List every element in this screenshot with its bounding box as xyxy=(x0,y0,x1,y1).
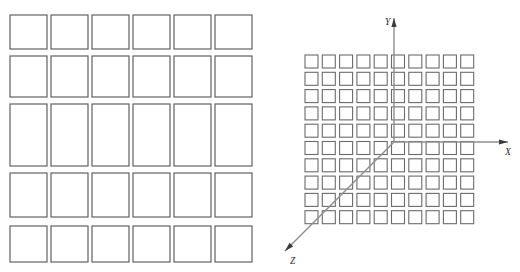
left-grid-cell xyxy=(215,104,252,166)
right-grid-cell xyxy=(426,72,439,85)
right-grid-cell xyxy=(409,90,422,103)
right-grid-cell xyxy=(392,193,405,206)
left-grid-cell xyxy=(51,15,88,49)
x-axis-label: X xyxy=(504,147,512,157)
right-grid-cell xyxy=(357,211,370,224)
left-grid-cell xyxy=(215,226,252,262)
right-grid-cell xyxy=(374,176,387,189)
right-grid-svg: YXZ xyxy=(260,0,520,272)
right-grid-cell xyxy=(426,107,439,120)
left-grid-cell-group xyxy=(10,15,252,262)
right-grid-cell xyxy=(426,55,439,68)
right-grid-cell xyxy=(305,159,318,172)
right-grid-cell xyxy=(461,72,474,85)
left-grid-cell xyxy=(133,173,170,217)
right-grid-cell xyxy=(426,142,439,155)
left-panel-coarse-grid xyxy=(0,0,260,272)
left-grid-cell xyxy=(10,56,47,97)
right-grid-cell xyxy=(357,159,370,172)
right-grid-cell xyxy=(443,142,456,155)
right-grid-cell xyxy=(426,211,439,224)
right-grid-cell xyxy=(461,107,474,120)
left-grid-cell xyxy=(92,173,129,217)
right-grid-cell xyxy=(305,193,318,206)
right-grid-cell xyxy=(409,124,422,137)
right-grid-cell xyxy=(443,107,456,120)
right-grid-cell xyxy=(426,159,439,172)
right-grid-cell xyxy=(322,176,335,189)
right-grid-cell xyxy=(374,72,387,85)
right-grid-cell xyxy=(322,142,335,155)
left-grid-cell xyxy=(215,15,252,49)
left-grid-cell xyxy=(51,173,88,217)
right-grid-cell xyxy=(374,211,387,224)
right-grid-cell xyxy=(461,124,474,137)
right-grid-cell xyxy=(305,72,318,85)
left-grid-cell xyxy=(215,56,252,97)
right-grid-cell xyxy=(461,176,474,189)
z-axis-label: Z xyxy=(290,256,296,266)
left-grid-cell xyxy=(10,173,47,217)
left-grid-cell xyxy=(133,15,170,49)
right-grid-cell xyxy=(340,90,353,103)
right-grid-cell xyxy=(443,159,456,172)
left-grid-cell xyxy=(133,226,170,262)
right-grid-cell xyxy=(357,72,370,85)
right-grid-cell xyxy=(340,176,353,189)
right-grid-cell xyxy=(392,159,405,172)
left-grid-cell xyxy=(174,173,211,217)
right-grid-cell xyxy=(340,159,353,172)
right-grid-cell xyxy=(322,193,335,206)
right-grid-cell xyxy=(340,211,353,224)
left-grid-cell xyxy=(174,56,211,97)
right-grid-cell xyxy=(322,159,335,172)
right-grid-cell xyxy=(357,193,370,206)
right-panel-fine-grid-with-axes: YXZ xyxy=(260,0,520,272)
right-grid-cell xyxy=(322,107,335,120)
right-grid-cell xyxy=(357,90,370,103)
right-grid-cell xyxy=(374,124,387,137)
right-grid-cell xyxy=(461,159,474,172)
right-grid-cell xyxy=(305,142,318,155)
right-grid-cell xyxy=(443,90,456,103)
left-grid-cell xyxy=(133,104,170,166)
right-grid-cell xyxy=(409,176,422,189)
right-grid-cell xyxy=(426,124,439,137)
figure-root: YXZ xyxy=(0,0,520,272)
right-grid-cell xyxy=(409,193,422,206)
left-grid-cell xyxy=(215,173,252,217)
right-grid-cell xyxy=(374,55,387,68)
right-grid-cell xyxy=(409,55,422,68)
right-grid-cell xyxy=(305,55,318,68)
right-grid-cell xyxy=(443,176,456,189)
right-grid-cell xyxy=(409,72,422,85)
right-grid-cell xyxy=(357,142,370,155)
right-grid-cell xyxy=(340,124,353,137)
left-grid-cell xyxy=(174,104,211,166)
right-grid-cell xyxy=(322,90,335,103)
right-grid-cell xyxy=(357,107,370,120)
left-grid-cell xyxy=(133,56,170,97)
right-grid-cell xyxy=(461,90,474,103)
left-grid-cell xyxy=(10,226,47,262)
right-grid-cell xyxy=(443,124,456,137)
right-grid-cell xyxy=(305,107,318,120)
right-grid-cell xyxy=(426,176,439,189)
left-grid-cell xyxy=(10,15,47,49)
right-grid-cell xyxy=(443,193,456,206)
right-grid-cell xyxy=(461,193,474,206)
right-grid-cell xyxy=(374,107,387,120)
left-grid-cell xyxy=(92,104,129,166)
right-grid-cell xyxy=(374,193,387,206)
right-grid-cell xyxy=(340,142,353,155)
right-grid-cell xyxy=(409,211,422,224)
right-grid-cell xyxy=(409,107,422,120)
left-grid-svg xyxy=(0,0,260,272)
right-grid-cell xyxy=(461,55,474,68)
right-grid-cell xyxy=(443,211,456,224)
right-grid-cell xyxy=(409,142,422,155)
right-grid-cell xyxy=(340,107,353,120)
right-grid-cell-group xyxy=(305,55,474,224)
left-grid-cell xyxy=(51,104,88,166)
right-grid-cell xyxy=(340,72,353,85)
